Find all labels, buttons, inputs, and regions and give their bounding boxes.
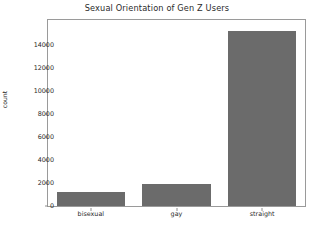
plot-area: 02000400060008000100001200014000bisexual…	[47, 19, 306, 207]
y-tick-label: 10000	[34, 87, 54, 95]
x-tick-label-gay: gay	[171, 210, 183, 218]
y-tick-label: 6000	[38, 133, 54, 141]
chart-figure: Sexual Orientation of Gen Z Users count …	[0, 0, 314, 228]
chart-title: Sexual Orientation of Gen Z Users	[0, 3, 314, 13]
bar-bisexual	[57, 192, 126, 206]
bar-gay	[142, 184, 211, 206]
y-tick-label: 0	[50, 202, 54, 210]
x-tick-label-straight: straight	[250, 210, 275, 218]
y-tick-label: 4000	[38, 156, 54, 164]
y-tick-label: 12000	[34, 64, 54, 72]
y-tick-label: 2000	[38, 179, 54, 187]
y-tick-mark	[45, 206, 48, 207]
y-tick-label: 8000	[38, 110, 54, 118]
plot-inner: 02000400060008000100001200014000bisexual…	[48, 20, 305, 206]
y-tick-label: 14000	[34, 41, 54, 49]
bar-straight	[228, 31, 297, 206]
x-tick-label-bisexual: bisexual	[78, 210, 105, 218]
y-axis-label: count	[1, 70, 8, 130]
